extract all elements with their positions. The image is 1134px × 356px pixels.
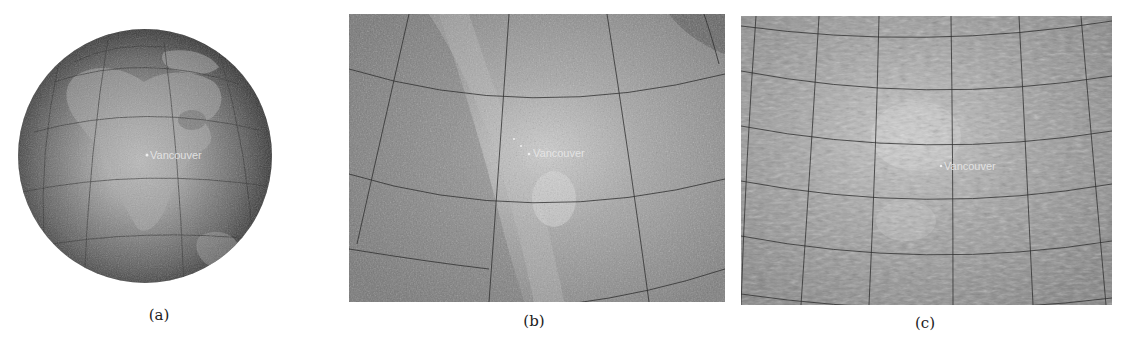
panel-c-close: Vancouver (741, 16, 1112, 305)
caption-c: (c) (895, 314, 955, 332)
caption-b: (b) (504, 312, 564, 330)
globe-image: Vancouver (14, 22, 280, 292)
caption-a: (a) (129, 306, 189, 324)
city-dot-icon (513, 138, 515, 140)
map-image-c: Vancouver (741, 16, 1112, 305)
city-label-vancouver-c: Vancouver (944, 160, 996, 172)
panel-a-globe: Vancouver (14, 22, 280, 292)
city-dot-icon (520, 145, 522, 147)
city-label-vancouver-b: Vancouver (533, 147, 585, 159)
map-image-b: Vancouver (349, 14, 725, 302)
vancouver-marker-icon (528, 153, 531, 156)
vancouver-marker-icon (146, 154, 149, 157)
panel-b-regional: Vancouver (349, 14, 725, 302)
city-label-vancouver-a: Vancouver (150, 149, 202, 161)
vancouver-marker-icon (940, 165, 943, 168)
